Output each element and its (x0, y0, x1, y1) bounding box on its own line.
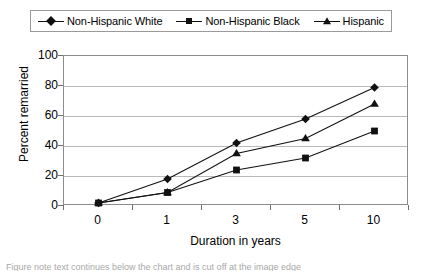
triangle-marker-icon (370, 100, 379, 107)
x-tick-label: 0 (78, 214, 118, 226)
square-marker-icon (186, 18, 192, 24)
legend-key-triangle (314, 16, 340, 27)
legend-key-diamond (38, 16, 64, 27)
legend-entry-hispanic: Hispanic (314, 16, 384, 27)
x-axis-label: Duration in years (63, 235, 408, 247)
y-tick-label: 20 (14, 169, 58, 181)
series-layer (64, 56, 409, 206)
x-tick-label: 10 (354, 214, 394, 226)
x-tick-mark (63, 205, 64, 210)
chart-legend: Non-Hispanic White Non-Hispanic Black Hi… (30, 10, 392, 32)
legend-label-hispanic: Hispanic (343, 16, 384, 27)
diamond-marker-icon (163, 175, 172, 184)
x-tick-mark (201, 205, 202, 210)
y-tick-label: 100 (14, 49, 58, 61)
figure-caption: Figure note text continues below the cha… (6, 262, 417, 271)
data-series (94, 83, 379, 207)
square-marker-icon (302, 155, 309, 162)
y-tick-label: 0 (14, 199, 58, 211)
chart-container: Non-Hispanic White Non-Hispanic Black Hi… (0, 0, 423, 272)
x-tick-label: 5 (285, 214, 325, 226)
diamond-marker-icon (232, 139, 241, 148)
legend-label-non-hispanic-black: Non-Hispanic Black (205, 16, 299, 27)
square-marker-icon (233, 167, 240, 174)
x-tick-label: 3 (216, 214, 256, 226)
x-tick-mark (339, 205, 340, 210)
plot-area (63, 55, 408, 205)
legend-key-square (176, 16, 202, 27)
x-tick-mark (132, 205, 133, 210)
y-tick-label: 60 (14, 109, 58, 121)
square-marker-icon (371, 128, 378, 135)
diamond-marker-icon (301, 115, 310, 124)
legend-entry-non-hispanic-black: Non-Hispanic Black (176, 16, 299, 27)
diamond-marker-icon (370, 83, 379, 92)
legend-label-non-hispanic-white: Non-Hispanic White (67, 16, 162, 27)
legend-entry-non-hispanic-white: Non-Hispanic White (38, 16, 162, 27)
y-tick-label: 80 (14, 79, 58, 91)
triangle-marker-icon (301, 134, 310, 141)
y-tick-label: 40 (14, 139, 58, 151)
x-tick-mark (270, 205, 271, 210)
x-tick-label: 1 (147, 214, 187, 226)
diamond-marker-icon (46, 16, 56, 26)
x-tick-mark (408, 205, 409, 210)
triangle-marker-icon (323, 17, 331, 24)
